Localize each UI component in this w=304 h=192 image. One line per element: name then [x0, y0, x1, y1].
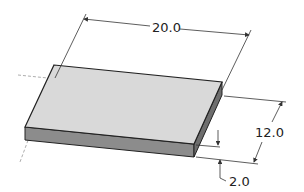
dimension-line-length-b: [180, 29, 249, 35]
dimension-width-label: 12.0: [255, 125, 284, 140]
extension-line-thickness-top: [196, 145, 220, 147]
extension-line-width-top: [224, 96, 286, 102]
leader-thickness: [220, 178, 226, 181]
dimension-thickness-label: 2.0: [229, 174, 250, 189]
dimension-length-label: 20.0: [152, 20, 181, 35]
dimension-line-width-a: [272, 102, 282, 122]
extension-line-length-right: [222, 30, 251, 90]
extension-line-width-bottom: [196, 157, 258, 164]
dimension-line-length-a: [84, 19, 150, 26]
plate-diagram: 20.0 12.0 2.0: [0, 0, 304, 192]
dimension-line-width-b: [254, 142, 262, 162]
